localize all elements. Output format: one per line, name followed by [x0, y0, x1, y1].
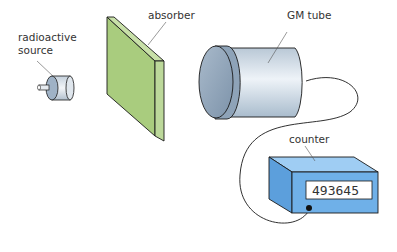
counter-input-socket	[306, 205, 312, 211]
absorber-leader-line	[148, 22, 166, 45]
source-label-line1: radioactive	[18, 31, 77, 43]
radioactive-source	[38, 76, 75, 100]
counter-label: counter	[289, 133, 330, 145]
counter-reading: 493645	[312, 183, 359, 198]
diagram-canvas: radioactive source absorber GM tube 4936…	[0, 0, 397, 252]
gm-tube-experiment-diagram: radioactive source absorber GM tube 4936…	[0, 0, 397, 252]
gm-tube-label: GM tube	[287, 9, 331, 21]
counter: 493645	[269, 157, 378, 213]
source-leader-line	[37, 61, 55, 78]
gm-tube	[199, 46, 302, 119]
source-label-line2: source	[18, 44, 53, 56]
absorber-label: absorber	[148, 9, 195, 21]
